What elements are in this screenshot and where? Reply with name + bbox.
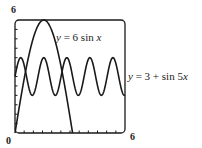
- curve-label-body: = 6 sin: [61, 31, 97, 43]
- curve-3-plus-sin-5x: [15, 58, 125, 96]
- curve-label-3-plus-sin-5x: y = 3 + sin 5x: [128, 71, 188, 82]
- x-axis-max-label: 6: [130, 132, 135, 142]
- curve-label-6-sin-x: y = 6 sin x: [56, 32, 101, 43]
- axis-ticks: [15, 29, 116, 133]
- curve-label-x: x: [183, 70, 188, 82]
- curve-label-x: x: [96, 31, 101, 43]
- y-axis-max-label: 6: [11, 5, 16, 15]
- curve-label-body: = 3 + sin 5: [133, 70, 183, 82]
- x-axis-min-label: 0: [6, 136, 11, 146]
